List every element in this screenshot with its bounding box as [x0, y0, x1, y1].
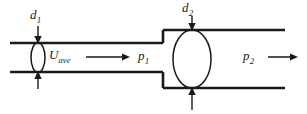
label-p1: p1: [138, 49, 149, 65]
label-d1-subscript: 1: [37, 15, 42, 25]
upstream-flow-arrow-head: [122, 53, 130, 60]
downstream-flow-arrow-head: [290, 53, 298, 60]
label-p1-symbol: p: [138, 48, 145, 63]
label-u-ave-symbol: U: [49, 47, 58, 62]
label-d2: d2: [182, 1, 193, 17]
label-p1-subscript: 1: [145, 56, 150, 66]
label-p2-subscript: 2: [250, 56, 255, 66]
pipe-expansion-diagram: d1 d2 Uave p1 p2: [0, 0, 307, 114]
label-p2-symbol: p: [243, 48, 250, 63]
label-d2-subscript: 2: [189, 8, 194, 18]
diagram-canvas: [0, 0, 307, 114]
section-2-ellipse: [173, 30, 211, 88]
label-d1: d1: [30, 8, 41, 24]
section-1-ellipse: [31, 43, 45, 73]
label-u-ave-subscript: ave: [58, 55, 70, 65]
label-p2: p2: [243, 49, 254, 65]
label-d2-symbol: d: [182, 0, 189, 15]
label-d1-symbol: d: [30, 7, 37, 22]
label-u-ave: Uave: [49, 48, 70, 64]
